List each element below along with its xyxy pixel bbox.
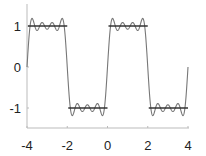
fourier-series-line — [27, 18, 188, 115]
x-tick-label: -4 — [21, 138, 33, 153]
fourier-square-wave-chart: -4-2024 10-1 — [0, 0, 206, 156]
y-ticks: 10-1 — [9, 19, 29, 116]
y-tick-label: 1 — [14, 19, 21, 34]
x-tick-label: 0 — [104, 138, 111, 153]
y-tick-label: -1 — [9, 101, 21, 116]
x-tick-label: 4 — [184, 138, 191, 153]
x-tick-label: -2 — [61, 138, 73, 153]
plot-area: -4-2024 10-1 — [9, 4, 191, 153]
x-tick-label: 2 — [144, 138, 151, 153]
x-ticks: -4-2024 — [21, 126, 191, 153]
y-tick-label: 0 — [14, 60, 21, 75]
